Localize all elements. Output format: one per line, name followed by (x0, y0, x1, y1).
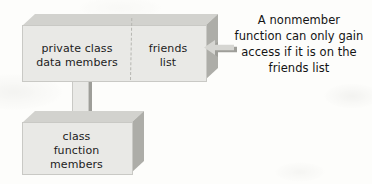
friends-list-diagram: private class data members friends list … (0, 0, 372, 184)
function-block-label: class function members (22, 130, 131, 172)
nonmember-access-caption: A nonmember function can only gain acces… (228, 12, 370, 76)
friends-list-section-label: friends list (132, 42, 204, 70)
private-data-section-label: private class data members (24, 42, 130, 70)
function-block: class function members (22, 111, 144, 173)
class-block: private class data members friends list (22, 14, 218, 80)
